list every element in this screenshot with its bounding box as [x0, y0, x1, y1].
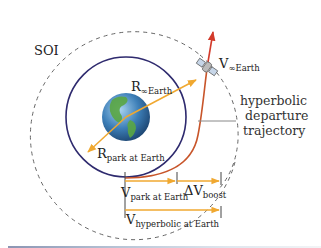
r-infinity-label: R∞Earth: [131, 79, 173, 96]
v-hyperbolic-label: Vhyperbolic at Earth: [125, 212, 220, 229]
soi-label: SOI: [34, 43, 59, 58]
trajectory-label-line1: hyperbolic: [240, 93, 307, 108]
velocity-arrow-v-infinity: [208, 32, 213, 62]
v-infinity-label: V∞Earth: [218, 56, 260, 73]
trajectory-label-line3: trajectory: [243, 123, 306, 138]
v-park-label: Vpark at Earth: [120, 185, 189, 202]
hyperbolic-departure-diagram: SOI R∞Earth V∞Earth Rpark at Earth Vpark…: [0, 0, 321, 248]
r-park-label: Rpark at Earth: [97, 146, 165, 163]
delta-v-boost-label: ΔVboost: [184, 183, 227, 200]
trajectory-label-line2: departure: [245, 108, 308, 123]
